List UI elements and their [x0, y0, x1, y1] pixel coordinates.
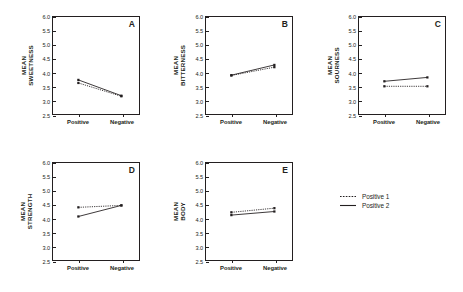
series-line-positive-2 — [231, 212, 274, 216]
x-axis-tick-label-positive: Positive — [67, 119, 89, 125]
y-axis-label-line2: SWEETNESS — [27, 45, 34, 86]
y-axis-label-e: MEANBODY — [167, 162, 193, 261]
data-point-marker — [273, 64, 275, 66]
y-axis-label-line1: MEAN — [326, 47, 333, 83]
legend-item-positive-2: Positive 2 — [340, 201, 450, 210]
y-axis-tick-label: 4.5 — [196, 56, 206, 62]
data-point-marker — [383, 85, 385, 87]
legend-label-positive-1: Positive 1 — [359, 193, 389, 200]
y-axis-tick-label: 6.0 — [349, 14, 359, 20]
panel-e: MEANBODYPositiveNegativeE6.05.55.04.54.0… — [153, 146, 306, 292]
y-axis-tick-label: 4.0 — [196, 217, 206, 223]
x-axis-tick-mark — [232, 260, 233, 263]
x-axis-tick-mark — [232, 114, 233, 117]
x-axis-tick-label-positive: Positive — [220, 119, 242, 125]
interaction-plot-figure: MEANSWEETNESSPositiveNegativeA6.05.55.04… — [0, 0, 463, 292]
plot-area-a: A6.05.55.04.54.03.53.02.5 — [52, 16, 140, 115]
y-axis-label-line2: STRENGTH — [27, 194, 34, 230]
data-point-marker — [426, 85, 428, 87]
y-axis-tick-label: 6.0 — [43, 160, 53, 166]
data-point-marker — [273, 210, 275, 212]
data-point-marker — [77, 206, 79, 208]
y-axis-tick-label: 4.5 — [43, 56, 53, 62]
series-line-positive-2 — [78, 80, 121, 96]
series-layer — [53, 17, 139, 114]
y-axis-tick-label: 3.0 — [349, 99, 359, 105]
series-line-positive-2 — [78, 205, 121, 216]
plot-area-d: D6.05.55.04.54.03.53.02.5 — [52, 162, 140, 261]
data-point-marker — [77, 82, 79, 84]
x-axis-tick-label-positive: Positive — [373, 119, 395, 125]
y-axis-label-a: MEANSWEETNESS — [14, 16, 40, 115]
y-axis-tick-label: 5.5 — [43, 28, 53, 34]
y-axis-tick-label: 6.0 — [43, 14, 53, 20]
data-point-marker — [426, 76, 428, 78]
y-axis-tick-label: 5.0 — [349, 42, 359, 48]
legend-item-positive-1: Positive 1 — [340, 192, 450, 201]
y-axis-tick-label: 2.5 — [43, 113, 53, 119]
series-line-positive-2 — [384, 77, 427, 81]
series-line-positive-1 — [78, 83, 121, 96]
x-axis-tick-label-positive: Positive — [220, 265, 242, 271]
plot-area-e: E6.05.55.04.54.03.53.02.5 — [205, 162, 293, 261]
panel-c: MEANSOURNESSPositiveNegativeC6.05.55.04.… — [306, 0, 459, 146]
y-axis-tick-label: 3.5 — [196, 231, 206, 237]
y-axis-tick-label: 6.0 — [196, 14, 206, 20]
y-axis-tick-label: 5.5 — [43, 174, 53, 180]
x-axis-tick-mark — [79, 260, 80, 263]
y-axis-tick-label: 4.0 — [196, 71, 206, 77]
y-axis-label-line2: SOURNESS — [333, 47, 340, 83]
x-axis-tick-mark — [429, 114, 430, 117]
y-axis-label-d: MEANSTRENGTH — [14, 162, 40, 261]
chart-legend: Positive 1 Positive 2 — [340, 192, 450, 210]
y-axis-tick-label: 5.0 — [196, 42, 206, 48]
data-point-marker — [77, 215, 79, 217]
y-axis-tick-label: 2.5 — [43, 259, 53, 265]
y-axis-tick-label: 3.0 — [43, 99, 53, 105]
y-axis-label-line1: MEAN — [20, 45, 27, 86]
y-axis-label-line2: BITTERNESS — [180, 45, 187, 86]
plot-area-c: C6.05.55.04.54.03.53.02.5 — [358, 16, 446, 115]
y-axis-tick-label: 2.5 — [196, 113, 206, 119]
panel-a: MEANSWEETNESSPositiveNegativeA6.05.55.04… — [0, 0, 153, 146]
x-axis-tick-mark — [79, 114, 80, 117]
data-point-marker — [273, 66, 275, 68]
legend-swatch-solid-icon — [340, 201, 359, 210]
y-axis-tick-label: 3.0 — [196, 245, 206, 251]
x-axis-tick-mark — [276, 260, 277, 263]
y-axis-tick-label: 4.0 — [349, 71, 359, 77]
y-axis-tick-label: 4.5 — [349, 56, 359, 62]
legend-label-positive-2: Positive 2 — [359, 202, 389, 209]
y-axis-tick-label: 2.5 — [349, 113, 359, 119]
y-axis-tick-label: 5.0 — [196, 188, 206, 194]
y-axis-tick-label: 2.5 — [196, 259, 206, 265]
y-axis-tick-label: 3.0 — [196, 99, 206, 105]
x-axis-tick-mark — [123, 114, 124, 117]
series-layer — [206, 163, 292, 260]
data-point-marker — [273, 207, 275, 209]
y-axis-tick-label: 5.0 — [43, 188, 53, 194]
panel-d: MEANSTRENGTHPositiveNegativeD6.05.55.04.… — [0, 146, 153, 292]
y-axis-tick-label: 5.5 — [196, 174, 206, 180]
x-axis-tick-label-negative: Negative — [110, 119, 134, 125]
legend-swatch-dotted-icon — [340, 192, 359, 201]
plot-area-b: B6.05.55.04.54.03.53.02.5 — [205, 16, 293, 115]
y-axis-tick-label: 3.5 — [43, 231, 53, 237]
series-layer — [359, 17, 445, 114]
panel-b: MEANBITTERNESSPositiveNegativeB6.05.55.0… — [153, 0, 306, 146]
x-axis-tick-label-positive: Positive — [67, 265, 89, 271]
series-line-positive-2 — [231, 65, 274, 75]
y-axis-tick-label: 3.0 — [43, 245, 53, 251]
x-axis-tick-mark — [385, 114, 386, 117]
y-axis-tick-label: 3.5 — [43, 85, 53, 91]
y-axis-tick-label: 4.0 — [43, 217, 53, 223]
x-axis-tick-label-negative: Negative — [416, 119, 440, 125]
series-layer — [53, 163, 139, 260]
y-axis-label-c: MEANSOURNESS — [320, 16, 346, 115]
x-axis-tick-mark — [276, 114, 277, 117]
y-axis-tick-label: 5.0 — [43, 42, 53, 48]
y-axis-tick-label: 4.0 — [43, 71, 53, 77]
data-point-marker — [77, 79, 79, 81]
x-axis-tick-label-negative: Negative — [263, 265, 287, 271]
data-point-marker — [230, 74, 232, 76]
